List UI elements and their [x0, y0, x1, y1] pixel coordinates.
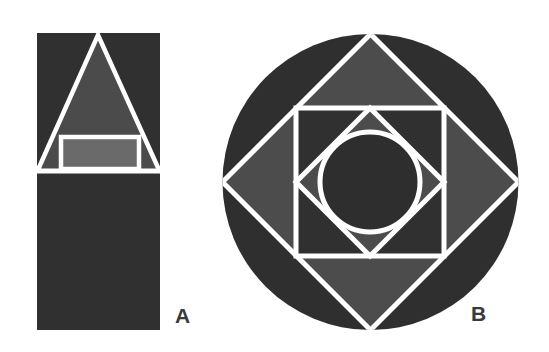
figure-a-label: A — [175, 305, 190, 326]
geometric-figures — [0, 0, 549, 352]
figure-b-label: B — [471, 303, 486, 324]
figure-a — [36, 33, 161, 330]
figure-a-inner-rect — [61, 137, 139, 169]
figure-b — [223, 34, 519, 330]
